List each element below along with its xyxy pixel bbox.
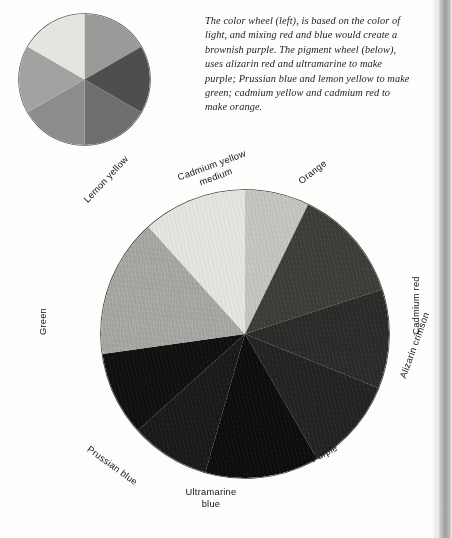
label-green: Green (38, 308, 49, 335)
light-color-wheel-svg (19, 14, 150, 145)
page-edge-shadow (437, 0, 452, 538)
label-lemon-yellow: Lemon yellow (82, 154, 131, 205)
light-color-wheel (19, 14, 150, 145)
label-orange: Orange (297, 158, 329, 187)
figure-caption: The color wheel (left), is based on the … (205, 14, 410, 115)
page-canvas: The color wheel (left), is based on the … (0, 0, 452, 538)
label-ultramarine-blue: Ultramarine blue (175, 487, 247, 510)
label-cadmium-red: Cadmium red (411, 269, 422, 343)
label-prussian-blue: Prussian blue (85, 444, 140, 488)
pigment-color-wheel-svg (101, 190, 389, 478)
pigment-color-wheel (101, 190, 389, 478)
